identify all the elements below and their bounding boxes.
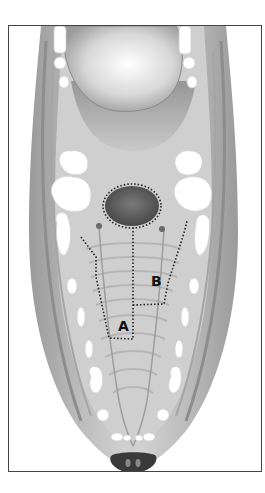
nasal-planum xyxy=(110,452,156,472)
label-a: A xyxy=(118,319,129,333)
anatomical-illustration-frame: A B xyxy=(8,25,262,472)
major-palatine-foramen-right xyxy=(159,226,165,232)
palate-illustration xyxy=(8,25,262,472)
label-b: B xyxy=(151,274,162,288)
major-palatine-foramen-left xyxy=(96,223,102,229)
palatal-defect xyxy=(105,186,159,226)
